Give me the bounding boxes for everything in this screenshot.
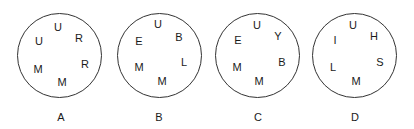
letter: L <box>181 57 187 68</box>
letter: M <box>254 76 263 87</box>
letter: M <box>157 76 166 87</box>
letter: Y <box>274 31 281 42</box>
letter: B <box>278 57 285 68</box>
figure-b: U B E L M M B <box>110 0 210 129</box>
letter: L <box>330 62 336 73</box>
letter: E <box>234 35 241 46</box>
letter: U <box>35 36 43 47</box>
letter: U <box>154 19 162 30</box>
letter: E <box>135 36 142 47</box>
letter: U <box>349 20 357 31</box>
letter: R <box>81 59 89 70</box>
figure-label: C <box>254 112 262 123</box>
letter: B <box>175 32 182 43</box>
figure-label: D <box>351 112 359 123</box>
letter: M <box>57 77 66 88</box>
letter: I <box>333 35 336 46</box>
figure-a: U R U R M M A <box>10 0 110 129</box>
letter: R <box>75 33 83 44</box>
letter: U <box>54 22 62 33</box>
figure-d: U H I S L M D <box>305 0 405 129</box>
letter: U <box>253 20 261 31</box>
letter: H <box>370 31 378 42</box>
figure-c: U Y E B M M C <box>208 0 308 129</box>
figure-label: A <box>57 112 64 123</box>
figure-label: B <box>155 112 162 123</box>
letter: M <box>351 76 360 87</box>
letter: S <box>376 57 383 68</box>
letter: M <box>33 64 42 75</box>
letter: M <box>134 62 143 73</box>
letter: M <box>232 62 241 73</box>
